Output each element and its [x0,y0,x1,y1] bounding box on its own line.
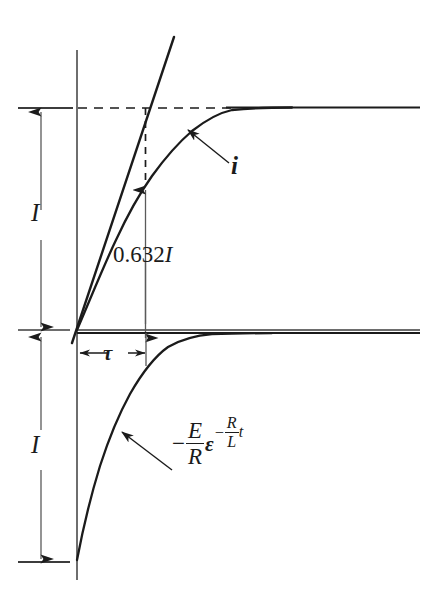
formula-exp-denominator: L [225,433,239,450]
formula-exponent: −RLt [215,416,243,451]
label-current-I-bottom: I [31,432,39,457]
formula-emf-numerator: E [186,419,204,444]
label-0632I-unit: I [165,242,173,267]
label-0632I: 0.632I [113,243,172,266]
label-curve-i: i [231,153,238,178]
figure-canvas [0,0,434,597]
lower-plot-group [77,333,420,560]
dimension-tau-group [80,333,146,366]
formula-emf-denominator: R [186,444,204,468]
leader-line-i [188,130,229,163]
rising-current-curve [77,108,292,331]
formula-exp-variable: t [239,424,243,441]
leader-line-formula [122,432,172,470]
label-current-I-top: I [31,200,39,225]
rl-current-figure: I I 0.632I i τ −ERε−RLt [0,0,434,597]
formula-fraction-R-over-L: RL [225,415,239,450]
formula-epsilon-base: ε [204,432,215,456]
formula-minus-sign: − [172,432,186,455]
label-time-constant-tau: τ [103,343,112,364]
upper-plot-group [72,37,420,343]
label-decay-formula: −ERε−RLt [172,421,243,470]
formula-fraction-E-over-R: ER [186,419,204,468]
formula-exponent-minus-sign: − [215,425,225,441]
initial-tangent-line [72,37,174,343]
formula-exp-numerator: R [225,415,239,433]
axes-group [18,50,420,580]
label-0632I-value: 0.632 [113,242,165,267]
